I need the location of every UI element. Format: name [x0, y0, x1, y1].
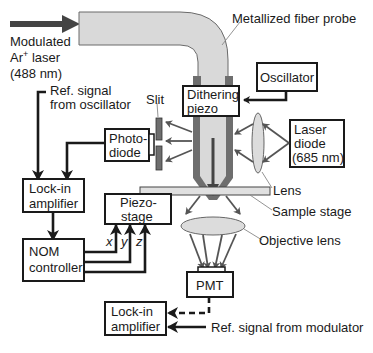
lockin-2-label-2: amplifier — [111, 319, 161, 334]
pmt-to-lockin-dashed-line — [168, 297, 209, 313]
x-axis-label: x — [105, 234, 113, 249]
ref-osc-line — [38, 92, 46, 180]
photodiode-window — [149, 134, 154, 155]
laser-source-label-2: Ar+ laser — [10, 49, 61, 65]
oscillator-label: Oscillator — [260, 70, 315, 85]
piezo-stage-label-2: stage — [121, 209, 153, 224]
oscillator-to-piezo-line — [244, 91, 286, 100]
ref-osc-label: Ref. signal — [50, 83, 112, 98]
lens-callout-line — [262, 172, 272, 188]
piezo-stage-label: Piezo- — [120, 195, 157, 210]
photodiode-label: Photo- — [109, 131, 147, 146]
laser-diode-label-2: diode — [294, 136, 326, 151]
laser-diode-label-3: (685 nm) — [292, 150, 344, 165]
lens-label: Lens — [273, 183, 302, 198]
ref-osc-label-2: from oscillator — [50, 97, 132, 112]
lockin-1-label: Lock-in — [29, 181, 71, 196]
focused-rays — [190, 234, 236, 268]
ref-mod-label: Ref. signal from modulator — [211, 320, 364, 335]
z-axis-label: z — [135, 234, 143, 249]
fiber-probe-label: Metallized fiber probe — [232, 11, 356, 26]
laser-diode-label: Laser — [294, 122, 327, 137]
dithering-piezo-label-2: piezo — [187, 101, 218, 116]
nom-controller-label: NOM — [29, 244, 59, 259]
objective-lens — [181, 217, 245, 235]
objective-lens-label: Objective lens — [259, 233, 341, 248]
slit-lower-blade — [156, 146, 162, 170]
photodiode-label-2: diode — [109, 145, 141, 160]
lockin-1-label-2: amplifier — [29, 196, 79, 211]
sample-stage-callout-line — [250, 195, 272, 210]
nom-controller-label-2: controller — [29, 260, 83, 275]
lens — [252, 113, 264, 173]
lockin-2-label: Lock-in — [111, 304, 153, 319]
laser-source-label-3: (488 nm) — [10, 66, 62, 81]
sample-stage-label: Sample stage — [272, 204, 352, 219]
optical-fiber — [79, 12, 228, 90]
slit-upper-blade — [156, 118, 162, 140]
photodiode-to-lockin-line — [67, 143, 104, 180]
nom-setup-diagram: Modulated Ar+ laser (488 nm) Metallized … — [0, 0, 373, 353]
laser-source-label: Modulated — [10, 34, 71, 49]
laser-input-arrow — [10, 15, 80, 33]
y-axis-label: y — [120, 234, 129, 249]
pmt-label: PMT — [196, 278, 224, 293]
scattered-rays — [166, 122, 192, 161]
slit-label: Slit — [146, 92, 164, 107]
dithering-piezo-label: Dithering — [187, 87, 239, 102]
